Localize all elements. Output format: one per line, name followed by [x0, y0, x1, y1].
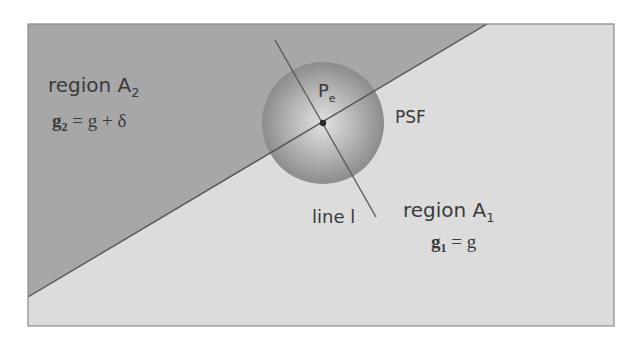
line-l-label: line l — [312, 206, 355, 227]
psf-edge-diagram: region A2 g2 = g + δ Pe PSF line l regio… — [0, 0, 643, 345]
region-a2-label: region A2 — [48, 73, 140, 100]
point-pe-dot — [320, 120, 326, 126]
region-a1-label: region A1 — [403, 198, 495, 225]
psf-label: PSF — [395, 107, 426, 127]
region-a1-equation: g1 = g — [431, 231, 477, 255]
